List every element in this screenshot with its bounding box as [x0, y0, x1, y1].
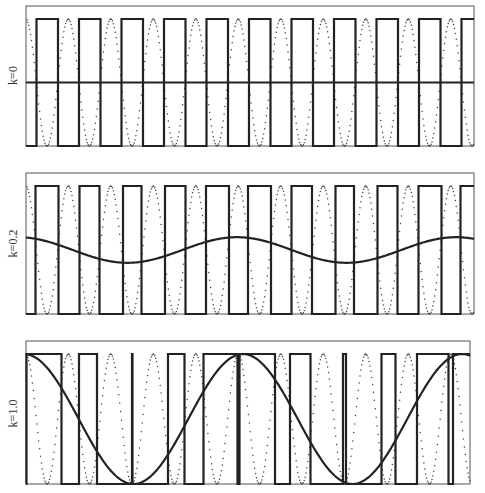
panel-frame	[26, 341, 470, 484]
panel-k02	[26, 173, 474, 315]
panel-k0	[26, 6, 474, 147]
chart-canvas	[0, 0, 485, 493]
y-axis-label-k02: k=0.2	[6, 214, 21, 274]
pwm-square-wave	[26, 186, 474, 314]
reference-signal-line	[26, 237, 474, 263]
pwm-square-wave	[26, 354, 470, 484]
reference-signal-line	[26, 354, 470, 484]
panel-frame	[26, 173, 474, 314]
y-axis-label-k10: k=1.0	[6, 384, 21, 444]
panel-k10	[26, 341, 471, 485]
y-axis-label-k0: k=0	[6, 46, 21, 106]
